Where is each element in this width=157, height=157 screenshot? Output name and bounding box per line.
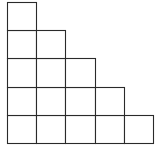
grid-cell-c1-r4 <box>8 31 37 59</box>
staircase-diagram <box>0 0 157 157</box>
grid-cell-c5-r1 <box>125 116 154 144</box>
grid-cell-c3-r1 <box>66 116 96 144</box>
grid-cell-c1-r1 <box>8 116 37 144</box>
grid-cell-c4-r1 <box>96 116 125 144</box>
grid-cell-c1-r2 <box>8 88 37 116</box>
grid-cell-c3-r2 <box>66 88 96 116</box>
grid-cell-c2-r4 <box>37 31 66 59</box>
grid-cell-c1-r3 <box>8 59 37 88</box>
grid-cell-c2-r2 <box>37 88 66 116</box>
grid-cell-c1-r5 <box>8 3 37 31</box>
grid-cell-c3-r3 <box>66 59 96 88</box>
grid-cell-c2-r1 <box>37 116 66 144</box>
grid-cell-c2-r3 <box>37 59 66 88</box>
grid-cell-c4-r2 <box>96 88 125 116</box>
